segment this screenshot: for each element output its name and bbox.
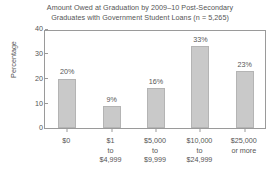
y-axis-tick-label: 30	[35, 50, 45, 57]
bar[interactable]	[147, 88, 165, 128]
x-axis-tick-mark	[156, 128, 157, 132]
bar-value-label: 16%	[149, 78, 163, 85]
x-axis-tick-label: $25,000 or more	[218, 136, 270, 155]
bar-group: 20%	[45, 31, 89, 128]
y-axis-tick-label: 20	[35, 75, 45, 82]
bar[interactable]	[58, 79, 76, 129]
x-axis-tick-mark	[244, 128, 245, 132]
y-axis-tick-mark	[45, 29, 48, 30]
bar-value-label: 23%	[238, 61, 252, 68]
bar-series: 20%9%16%33%23%	[45, 31, 265, 128]
bar-group: 16%	[134, 31, 178, 128]
y-axis-tick-label: 40	[35, 25, 45, 32]
bar-value-label: 33%	[193, 36, 207, 43]
x-axis-tick-mark	[67, 128, 68, 132]
bar[interactable]	[191, 46, 209, 128]
bar-group: 9%	[89, 31, 133, 128]
bar-value-label: 9%	[106, 96, 116, 103]
chart-title: Amount Owed at Graduation by 2009–10 Pos…	[18, 3, 262, 23]
bar[interactable]	[103, 106, 121, 128]
plot-area: 010203040 20%9%16%33%23%	[44, 30, 266, 129]
bar-chart-figure: Amount Owed at Graduation by 2009–10 Pos…	[0, 0, 278, 179]
y-axis-tick-label: 10	[35, 100, 45, 107]
bar-group: 33%	[178, 31, 222, 128]
x-axis-tick-mark	[111, 128, 112, 132]
bar-value-label: 20%	[60, 68, 74, 75]
bar[interactable]	[236, 71, 254, 128]
bar-group: 23%	[223, 31, 267, 128]
y-axis-title: Percentage	[9, 25, 18, 95]
x-axis-tick-mark	[200, 128, 201, 132]
